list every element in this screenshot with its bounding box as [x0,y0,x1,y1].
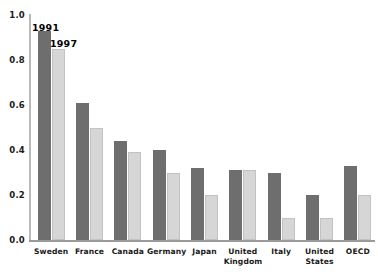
bar-group [185,15,223,240]
plot-area: 0.00.20.40.60.81.0 [30,15,375,240]
x-tick-label: United Kingdom [224,247,262,267]
bar-italy-1991 [268,173,281,241]
x-tick-label: Sweden [32,247,70,257]
y-tick-label: 0.2 [9,190,30,200]
x-tick-label: Italy [262,247,300,257]
series-label-1991: 1991 [32,22,59,33]
bar-united-kingdom-1997 [243,170,256,240]
bar-france-1991 [76,103,89,240]
x-tick-label: Germany [147,247,185,257]
bar-germany-1997 [167,173,180,241]
bar-canada-1997 [128,152,141,240]
bar-group [109,15,147,240]
bar-france-1997 [90,128,103,241]
bar-canada-1991 [114,141,127,240]
bar-group [147,15,185,240]
bar-sweden-1997 [52,49,65,240]
bar-sweden-1991 [38,31,51,240]
bar-group [339,15,377,240]
series-label-1997: 1997 [50,38,77,49]
bar-united-states-1997 [320,218,333,241]
bar-group [300,15,338,240]
bar-germany-1991 [153,150,166,240]
y-tick-label: 0.6 [9,100,30,110]
y-tick-label: 0.8 [9,55,30,65]
x-tick-label: OECD [339,247,377,257]
y-tick-label: 1.0 [9,10,30,20]
bar-oecd-1991 [344,166,357,240]
x-axis-line [29,240,375,242]
bar-group [262,15,300,240]
bar-united-states-1991 [306,195,319,240]
bar-chart: 0.00.20.40.60.81.0 SwedenFranceCanadaGer… [0,0,378,275]
x-tick-label: United States [300,247,338,267]
bar-oecd-1997 [358,195,371,240]
x-tick-label: France [70,247,108,257]
bar-groups [32,15,375,240]
x-tick-label: Japan [185,247,223,257]
bar-group [224,15,262,240]
bar-italy-1997 [282,218,295,241]
y-tick-label: 0.4 [9,145,30,155]
x-tick-label: Canada [109,247,147,257]
bar-japan-1997 [205,195,218,240]
y-tick-label: 0.0 [9,235,30,245]
bar-japan-1991 [191,168,204,240]
bar-united-kingdom-1991 [229,170,242,240]
